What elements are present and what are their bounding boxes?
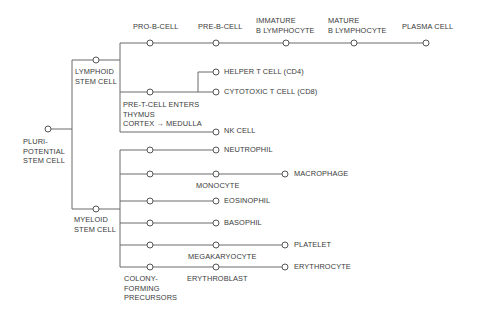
label-mature-b: MATURE B LYMPHOCYTE	[328, 16, 387, 35]
label-pre-t: PRE-T-CELL ENTERS THYMUS CORTEX → MEDULL…	[123, 100, 202, 129]
label-helper-t: HELPER T CELL (CD4)	[224, 67, 304, 77]
node-basophil	[213, 220, 219, 226]
node-platelet	[282, 242, 288, 248]
node-basophil-precursor	[147, 220, 153, 226]
node-macrophage	[282, 171, 288, 177]
label-pro-b: PRO-B-CELL	[133, 22, 178, 32]
node-neutrophil	[213, 147, 219, 153]
label-lymphoid: LYMPHOID STEM CELL	[75, 67, 117, 86]
node-pluripotent	[45, 126, 51, 132]
node-nk	[213, 129, 219, 135]
node-mature-b	[351, 40, 357, 46]
label-neutrophil: NEUTROPHIL	[224, 145, 273, 155]
label-basophil: BASOPHIL	[224, 218, 262, 228]
node-monocyte	[213, 171, 219, 177]
node-eosinophil-precursor	[147, 198, 153, 204]
node-cytotoxic-t	[213, 89, 219, 95]
node-eosinophil	[213, 198, 219, 204]
node-erythrocyte	[282, 264, 288, 270]
label-erythrocyte: ERYTHROCYTE	[294, 262, 351, 272]
node-plasma	[423, 40, 429, 46]
label-nk: NK CELL	[224, 126, 256, 136]
node-erythroblast	[213, 264, 219, 270]
node-neutrophil-precursor	[147, 147, 153, 153]
node-immature-b	[283, 40, 289, 46]
label-eosinophil: EOSINOPHIL	[224, 196, 270, 206]
node-megakaryocyte	[213, 242, 219, 248]
label-immature-b: IMMATURE B LYMPHOCYTE	[256, 16, 315, 35]
label-colony-forming: COLONY- FORMING PRECURSORS	[124, 274, 177, 303]
node-pre-t	[147, 89, 153, 95]
node-megakaryocyte-precursor	[147, 242, 153, 248]
label-pre-b: PRE-B-CELL	[198, 22, 243, 32]
label-cytotoxic-t: CYTOTOXIC T CELL (CD8)	[224, 87, 317, 97]
node-myeloid	[93, 206, 99, 212]
label-megakaryocyte: MEGAKARYOCYTE	[188, 252, 257, 262]
label-pluripotent: PLURI- POTENTIAL STEM CELL	[23, 137, 65, 166]
node-pro-b	[147, 40, 153, 46]
node-lymphoid	[93, 57, 99, 63]
label-plasma: PLASMA CELL	[402, 22, 453, 32]
node-monocyte-precursor	[147, 171, 153, 177]
node-helper-t	[213, 69, 219, 75]
label-monocyte: MONOCYTE	[196, 181, 240, 191]
label-erythroblast: ERYTHROBLAST	[187, 274, 248, 284]
label-macrophage: MACROPHAGE	[294, 169, 348, 179]
label-myeloid: MYELOID STEM CELL	[74, 215, 116, 234]
node-colony-precursor	[147, 264, 153, 270]
label-platelet: PLATELET	[294, 240, 331, 250]
node-pre-b	[213, 40, 219, 46]
